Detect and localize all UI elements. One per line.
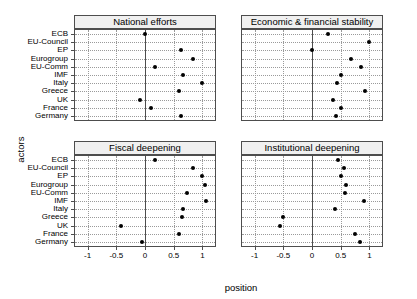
data-point: [281, 215, 285, 219]
data-point: [339, 174, 343, 178]
data-point: [349, 57, 353, 61]
data-point: [138, 98, 142, 102]
data-point: [358, 240, 362, 244]
grid-line-vertical: [202, 30, 203, 120]
x-axis-tick-mark: [174, 247, 175, 250]
data-point: [191, 166, 195, 170]
y-axis-tick-labels-bottom-row: ECBEU-CouncilEPEurogroupEU-CommIMFItalyG…: [6, 156, 74, 246]
panel-title-economic-financial-stability: Economic & financial stability: [241, 15, 383, 29]
data-point: [342, 166, 346, 170]
grid-line-vertical: [369, 156, 370, 246]
data-point: [200, 81, 204, 85]
zero-reference-line: [312, 156, 313, 246]
grid-line-vertical: [174, 30, 175, 120]
x-axis-tick-label: 1: [357, 252, 381, 260]
x-axis-tick-mark: [369, 247, 370, 250]
x-axis-tick-mark: [202, 247, 203, 250]
x-axis-tick-mark: [255, 247, 256, 250]
data-point: [204, 199, 208, 203]
panel-title-institutional-deepening: Institutional deepening: [241, 141, 383, 155]
data-point: [363, 89, 367, 93]
x-axis-title: position: [74, 282, 408, 293]
data-point: [149, 106, 153, 110]
x-axis-tick-label: 0.5: [162, 252, 186, 260]
y-axis-tick-label: Germany: [6, 112, 68, 120]
panel-title-fiscal-deepening: Fiscal deepening: [74, 141, 216, 155]
x-axis-tick-label: 0: [300, 252, 324, 260]
data-point: [335, 81, 339, 85]
grid-line-vertical: [174, 156, 175, 246]
grid-line-vertical: [88, 156, 89, 246]
x-axis-tick-mark: [283, 247, 284, 250]
x-axis-tick-label: 1: [190, 252, 214, 260]
grid-line-vertical: [88, 30, 89, 120]
grid-line-vertical: [255, 156, 256, 246]
x-axis-tick-label: -0.5: [271, 252, 295, 260]
panel-economic-financial-stability: Economic & financial stability: [241, 15, 383, 121]
data-point: [191, 57, 195, 61]
data-point: [180, 215, 184, 219]
faceted-dot-plot: actors position ECBEU-CouncilEPEurogroup…: [0, 0, 417, 299]
data-point: [119, 224, 123, 228]
zero-reference-line: [145, 156, 146, 246]
x-axis-tick-mark: [88, 247, 89, 250]
x-axis-right-column: -1-0.500.51: [242, 247, 382, 263]
data-point: [153, 65, 157, 69]
x-axis-tick-mark: [312, 247, 313, 250]
data-point: [185, 191, 189, 195]
x-axis-tick-mark: [145, 247, 146, 250]
data-point: [326, 32, 330, 36]
grid-line-vertical: [283, 30, 284, 120]
data-point: [336, 158, 340, 162]
x-axis-tick-mark: [116, 247, 117, 250]
plot-area-national-efforts: [74, 29, 216, 121]
zero-reference-line: [312, 30, 313, 120]
data-point: [343, 191, 347, 195]
data-point: [181, 73, 185, 77]
data-point: [353, 232, 357, 236]
data-point: [333, 207, 337, 211]
data-point: [177, 232, 181, 236]
x-axis-tick-label: -1: [243, 252, 267, 260]
x-axis-tick-label: -1: [76, 252, 100, 260]
data-point: [367, 40, 371, 44]
data-point: [203, 183, 207, 187]
x-axis-left-column: -1-0.500.51: [75, 247, 215, 263]
data-point: [334, 114, 338, 118]
panel-title-national-efforts: National efforts: [74, 15, 216, 29]
panel-institutional-deepening: Institutional deepening: [241, 141, 383, 247]
data-point: [179, 114, 183, 118]
grid-line-vertical: [255, 30, 256, 120]
grid-line-vertical: [341, 156, 342, 246]
grid-line-vertical: [116, 156, 117, 246]
plot-area-fiscal-deepening: [74, 155, 216, 247]
x-axis-tick-label: 0.5: [329, 252, 353, 260]
data-point: [339, 73, 343, 77]
data-point: [200, 174, 204, 178]
plot-area-economic-financial-stability: [241, 29, 383, 121]
data-point: [278, 224, 282, 228]
data-point: [181, 207, 185, 211]
grid-line-vertical: [283, 156, 284, 246]
data-point: [359, 65, 363, 69]
data-point: [179, 48, 183, 52]
panel-national-efforts: National efforts: [74, 15, 216, 121]
data-point: [344, 183, 348, 187]
panel-fiscal-deepening: Fiscal deepening: [74, 141, 216, 247]
data-point: [339, 106, 343, 110]
data-point: [362, 199, 366, 203]
x-axis-tick-label: 0: [133, 252, 157, 260]
x-axis-tick-label: -0.5: [104, 252, 128, 260]
data-point: [177, 89, 181, 93]
data-point: [310, 48, 314, 52]
data-point: [143, 32, 147, 36]
grid-line-vertical: [116, 30, 117, 120]
y-axis-tick-labels-top-row: ECBEU-CouncilEPEurogroupEU-CommIMFItalyG…: [6, 30, 74, 120]
x-axis-tick-mark: [341, 247, 342, 250]
data-point: [153, 158, 157, 162]
zero-reference-line: [145, 30, 146, 120]
data-point: [140, 240, 144, 244]
y-axis-tick-label: Germany: [6, 238, 68, 246]
data-point: [331, 98, 335, 102]
plot-area-institutional-deepening: [241, 155, 383, 247]
